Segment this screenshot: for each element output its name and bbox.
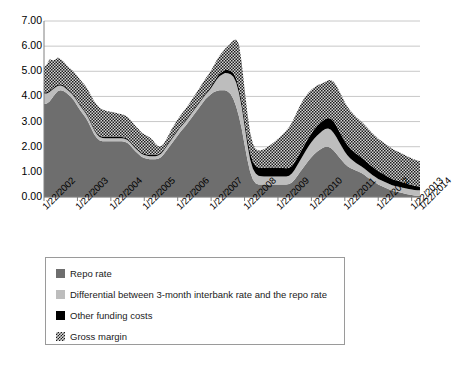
y-tick-label: 1.00 xyxy=(6,166,42,176)
x-axis-labels: 1/22/20021/22/20031/22/20041/22/20051/22… xyxy=(0,196,431,252)
legend-label: Gross margin xyxy=(70,331,127,342)
legend-swatch-icon xyxy=(56,311,65,320)
legend-label: Other funding costs xyxy=(70,310,152,321)
legend-item[interactable]: Repo rate xyxy=(56,267,112,279)
legend-label: Differential between 3-month interbank r… xyxy=(70,289,327,300)
y-tick-label: 7.00 xyxy=(6,15,42,25)
y-tick-label: 5.00 xyxy=(6,65,42,75)
y-tick-label: 4.00 xyxy=(6,90,42,100)
chart-plot-area: 0.001.002.003.004.005.006.007.00 1/22/20… xyxy=(0,0,431,250)
y-axis-labels: 0.001.002.003.004.005.006.007.00 xyxy=(2,0,42,210)
legend-swatch-icon xyxy=(56,332,65,341)
legend-swatch-icon xyxy=(56,290,65,299)
legend-label: Repo rate xyxy=(70,268,112,279)
y-tick-label: 2.00 xyxy=(6,141,42,151)
legend-item[interactable]: Other funding costs xyxy=(56,309,152,321)
legend-item[interactable]: Differential between 3-month interbank r… xyxy=(56,288,327,300)
legend-item[interactable]: Gross margin xyxy=(56,330,127,342)
series-layer xyxy=(44,40,420,197)
y-tick-label: 3.00 xyxy=(6,116,42,126)
y-tick-label: 6.00 xyxy=(6,40,42,50)
chart-legend: Repo rateDifferential between 3-month in… xyxy=(45,257,345,345)
legend-swatch-icon xyxy=(56,269,65,278)
